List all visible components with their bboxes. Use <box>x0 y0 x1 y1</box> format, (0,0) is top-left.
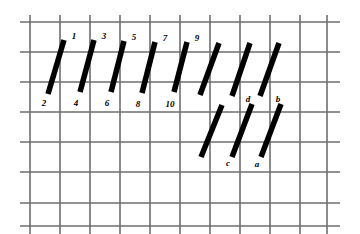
label-4: 4 <box>74 99 79 108</box>
label-7: 7 <box>163 34 168 43</box>
labels-layer: 13579246810dbca <box>0 0 360 234</box>
label-10: 10 <box>166 100 175 109</box>
label-9: 9 <box>195 34 200 43</box>
label-a: a <box>255 160 260 169</box>
label-2: 2 <box>42 99 47 108</box>
label-5: 5 <box>132 33 137 42</box>
label-6: 6 <box>105 99 110 108</box>
label-1: 1 <box>72 32 77 41</box>
label-c: c <box>226 159 230 168</box>
tilted-bars-figure: 13579246810dbca <box>0 0 360 234</box>
label-d: d <box>246 95 251 104</box>
label-8: 8 <box>136 100 141 109</box>
label-3: 3 <box>102 32 107 41</box>
label-b: b <box>276 95 281 104</box>
